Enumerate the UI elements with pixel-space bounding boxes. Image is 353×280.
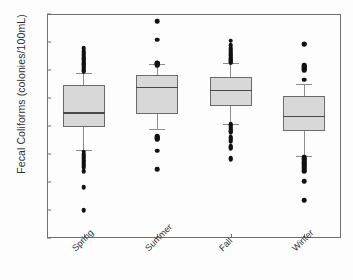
outlier-point	[302, 68, 307, 73]
outlier-point	[302, 77, 307, 82]
outlier-point	[302, 179, 307, 184]
box-group-winter	[47, 14, 341, 238]
outlier-point	[302, 169, 307, 174]
whisker-cap-upper	[296, 84, 312, 85]
y-axis-label: Fecal Coliforms (colonies/100mL)	[15, 0, 27, 189]
outlier-point	[302, 42, 307, 47]
outlier-point	[302, 198, 307, 203]
whisker-upper	[304, 84, 305, 96]
median-line	[283, 116, 325, 117]
x-tick-label-fall: Fall	[217, 236, 234, 253]
whisker-lower	[304, 131, 305, 156]
chart-figure: Fecal Coliforms (colonies/100mL) 1071061…	[0, 0, 353, 280]
box-iqr	[283, 96, 325, 131]
plot-area: 10710610510410310210110010-1 SpringSumme…	[47, 14, 341, 238]
